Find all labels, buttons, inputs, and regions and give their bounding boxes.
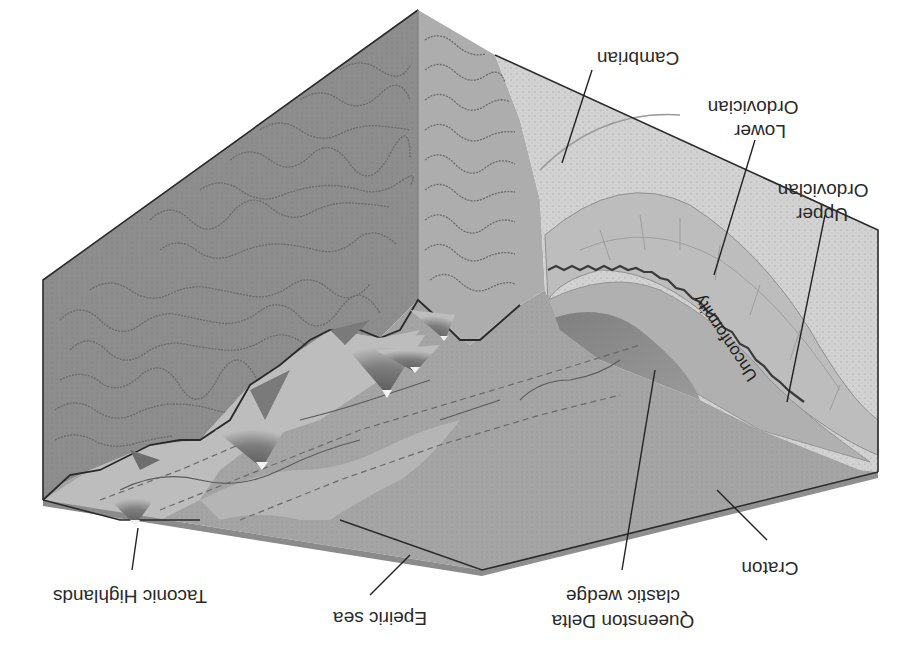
label-queenston-2: clastic wedge — [566, 586, 680, 607]
label-lower-ordovician-2: Ordovician — [708, 97, 799, 118]
taconic-leader — [132, 528, 138, 570]
label-queenston-1: Queenston Delta — [551, 611, 694, 632]
label-craton: Craton — [741, 558, 798, 579]
label-epeiric-sea: Epeiric sea — [333, 608, 427, 629]
label-upper-ordovician-1: Upper — [795, 204, 847, 225]
geologic-block-diagram: Cambrian Lower Ordovician Upper Ordovici… — [0, 0, 917, 651]
label-lower-ordovician-1: Lower — [733, 121, 785, 142]
label-taconic-highlands: Taconic Highlands — [53, 586, 207, 607]
label-upper-ordovician-2: Ordovician — [778, 180, 869, 201]
back-face-metamorphic — [418, 10, 545, 345]
label-cambrian: Cambrian — [597, 48, 679, 69]
